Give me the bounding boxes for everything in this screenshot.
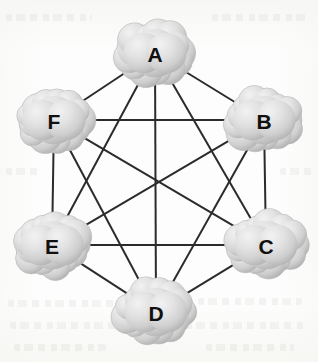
node-e[interactable]: E bbox=[14, 212, 92, 281]
node-label-c: C bbox=[258, 235, 273, 258]
node-label-e: E bbox=[45, 235, 59, 258]
node-c[interactable]: C bbox=[224, 209, 309, 279]
node-label-a: A bbox=[147, 43, 162, 66]
node-label-b: B bbox=[256, 110, 271, 133]
edge-b-c[interactable] bbox=[264, 147, 265, 219]
node-label-d: D bbox=[148, 302, 163, 325]
edge-c-d[interactable] bbox=[183, 262, 238, 296]
graph-svg: ABCDEF bbox=[0, 0, 318, 362]
edge-a-f[interactable] bbox=[80, 71, 128, 103]
node-d[interactable]: D bbox=[111, 277, 197, 345]
node-label-f: F bbox=[48, 110, 61, 133]
network-diagram-canvas: ABCDEF bbox=[0, 0, 318, 362]
edge-e-f[interactable] bbox=[52, 147, 53, 219]
node-b[interactable]: B bbox=[223, 86, 302, 152]
node-a[interactable]: A bbox=[113, 19, 195, 88]
edge-a-b[interactable] bbox=[182, 70, 237, 104]
edge-d-e[interactable] bbox=[79, 262, 130, 295]
edge-a-d[interactable] bbox=[155, 80, 156, 286]
node-f[interactable]: F bbox=[17, 89, 96, 154]
